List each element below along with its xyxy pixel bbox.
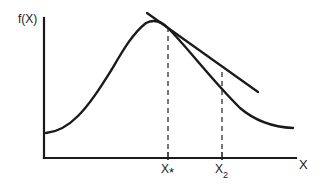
x-axis-label: X	[299, 158, 308, 171]
tick-label-x-star-subscript: *	[169, 165, 174, 180]
tick-label-x-2: X2	[215, 163, 228, 178]
secant-line	[147, 13, 258, 92]
tick-label-x-star-base: X	[161, 162, 169, 176]
tick-label-x-2-subscript: 2	[223, 170, 228, 180]
figure-container: f(X) X X* X2	[0, 0, 321, 185]
tick-label-x-2-base: X	[215, 162, 223, 176]
plot-canvas	[0, 0, 321, 185]
y-axis-label: f(X)	[18, 13, 37, 25]
function-curve	[46, 21, 293, 133]
tick-label-x-star: X*	[161, 163, 174, 178]
